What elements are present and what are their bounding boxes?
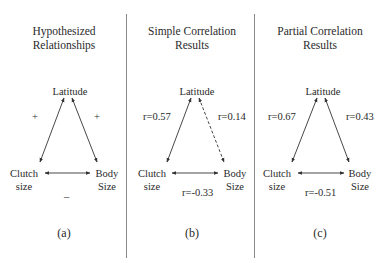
- edge-latitude-body: [199, 98, 224, 162]
- panel-simple-correlation: Simple Correlation Results Latitude Clut…: [128, 0, 256, 263]
- panel-caption: (b): [128, 226, 256, 241]
- node-body-size: Body Size: [220, 167, 250, 193]
- node-label: Body: [92, 167, 122, 180]
- edge-label-bottom: r=-0.33: [182, 186, 213, 199]
- node-clutch-size: Clutch size: [134, 167, 170, 193]
- node-latitude: Latitude: [300, 85, 346, 98]
- panel-partial-correlation: Partial Correlation Results Latitude Clu…: [256, 0, 384, 263]
- node-label: Body: [220, 167, 250, 180]
- edge-latitude-body: [325, 98, 349, 162]
- node-label: Size: [92, 180, 122, 193]
- edge-latitude-clutch: [292, 98, 317, 162]
- node-label: size: [6, 180, 42, 193]
- relationship-arrows: [0, 0, 128, 263]
- node-label: size: [259, 180, 295, 193]
- panel-divider: [126, 14, 127, 258]
- edge-latitude-clutch: [167, 98, 191, 162]
- edge-label-right: r=0.14: [218, 110, 246, 123]
- node-label: Clutch: [6, 167, 42, 180]
- edge-label-left: r=0.57: [143, 110, 171, 123]
- node-clutch-size: Clutch size: [259, 167, 295, 193]
- node-latitude: Latitude: [47, 85, 93, 98]
- panel-divider: [254, 14, 255, 258]
- edge-label-right: r=0.43: [346, 110, 374, 123]
- node-label: Body: [345, 167, 375, 180]
- panel-caption: (a): [0, 226, 128, 241]
- edge-latitude-clutch: [40, 98, 64, 162]
- edge-label-bottom: r=-0.51: [305, 186, 336, 199]
- relationship-arrows: [256, 0, 384, 263]
- node-label: Clutch: [259, 167, 295, 180]
- node-latitude: Latitude: [174, 85, 220, 98]
- edge-latitude-body: [72, 98, 97, 162]
- edge-label-left: +: [32, 110, 38, 123]
- node-label: Size: [345, 180, 375, 193]
- node-label: Size: [220, 180, 250, 193]
- node-body-size: Body Size: [92, 167, 122, 193]
- panel-hypothesized: Hypothesized Relationships Latitude Clut…: [0, 0, 128, 263]
- relationship-arrows: [128, 0, 256, 263]
- node-body-size: Body Size: [345, 167, 375, 193]
- node-clutch-size: Clutch size: [6, 167, 42, 193]
- panel-caption: (c): [256, 226, 384, 241]
- node-label: size: [134, 180, 170, 193]
- node-label: Clutch: [134, 167, 170, 180]
- edge-label-right: +: [94, 110, 100, 123]
- edge-label-bottom: –: [64, 190, 69, 203]
- edge-label-left: r=0.67: [268, 110, 296, 123]
